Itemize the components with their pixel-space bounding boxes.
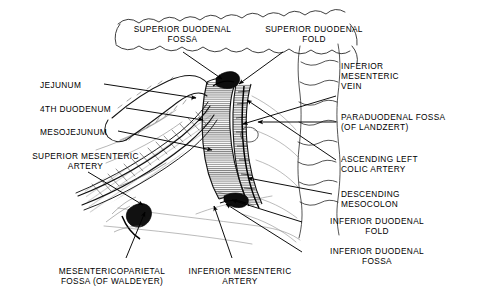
- label-superior-mesenteric-artery: SUPERIOR MESENTERIC ARTERY: [18, 151, 153, 171]
- label-jejunum: JEJUNUM: [40, 80, 130, 90]
- leader-descending-mesocolon: [248, 178, 332, 194]
- anatomical-diagram: SUPERIOR DUODENAL FOSSA SUPERIOR DUODENA…: [0, 0, 480, 305]
- superior-duodenal-fossa-opening: [213, 72, 240, 89]
- leader-inferior-duodenal-fossa: [226, 204, 302, 252]
- leader-inferior-mesenteric-vein: [243, 96, 336, 124]
- label-inferior-duodenal-fossa: INFERIOR DUODENAL FOSSA: [312, 246, 442, 266]
- label-inferior-duodenal-fold: INFERIOR DUODENAL FOLD: [312, 216, 442, 236]
- label-superior-duodenal-fossa: SUPERIOR DUODENAL FOSSA: [115, 24, 250, 44]
- label-inferior-mesenteric-vein: INFERIOR MESENTERIC VEIN: [341, 61, 461, 92]
- leader-inferior-duodenal-fold: [232, 200, 302, 222]
- label-mesentericoparietal-fossa: MESENTERICOPARIETAL FOSSA (OF WALDEYER): [42, 266, 182, 286]
- leader-superior-duodenal-fossa: [183, 52, 222, 79]
- descending-colon: [298, 44, 340, 238]
- label-descending-mesocolon: DESCENDING MESOCOLON: [341, 189, 461, 209]
- label-inferior-mesenteric-artery: INFERIOR MESENTERIC ARTERY: [170, 266, 310, 286]
- label-mesojejunum: MESOJEJUNUM: [40, 127, 150, 137]
- leader-inferior-mesenteric-artery: [214, 206, 232, 258]
- label-ascending-left-colic-artery: ASCENDING LEFT COLIC ARTERY: [341, 154, 466, 174]
- leader-superior-duodenal-fold: [239, 52, 283, 84]
- label-fourth-duodenum: 4TH DUODENUM: [40, 104, 150, 114]
- label-superior-duodenal-fold: SUPERIOR DUODENAL FOLD: [248, 24, 380, 44]
- label-paraduodenal-fossa: PARADUODENAL FOSSA (OF LANDZERT): [341, 112, 476, 132]
- mesentericoparietal-fossa-opening: [106, 197, 151, 239]
